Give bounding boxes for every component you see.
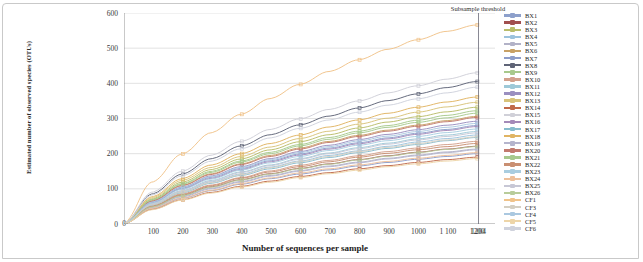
gridlines [124, 13, 495, 189]
legend-label: BX16 [525, 118, 540, 125]
legend-label: BX20 [525, 147, 540, 154]
subsample-threshold-label: Subsample threshold [413, 5, 543, 12]
legend-item-bx8[interactable]: BX8 [504, 62, 579, 69]
legend-label: BX2 [525, 19, 537, 26]
legend-label: BX8 [525, 62, 537, 69]
legend-swatch-icon [504, 92, 521, 94]
legend-item-bx11[interactable]: BX11 [504, 83, 579, 90]
y-axis-label: Estimated number of observed species (OT… [25, 18, 32, 198]
legend-item-bx5[interactable]: BX5 [504, 40, 579, 47]
legend-label: CF5 [525, 218, 536, 225]
legend-item-bx18[interactable]: BX18 [504, 133, 579, 140]
legend-swatch-icon [504, 114, 521, 116]
legend-swatch-icon [504, 43, 521, 45]
legend-label: BX19 [525, 140, 540, 147]
legend-item-bx10[interactable]: BX10 [504, 76, 579, 83]
legend-label: BX26 [525, 189, 540, 196]
legend-swatch-icon [504, 135, 521, 137]
legend-swatch-icon [504, 14, 521, 16]
legend-label: BX18 [525, 133, 540, 140]
legend-label: BX25 [525, 182, 540, 189]
legend-swatch-icon [504, 178, 521, 180]
legend-item-bx26[interactable]: BX26 [504, 189, 579, 196]
legend-label: BX1 [525, 12, 537, 19]
legend-item-bx4[interactable]: BX4 [504, 33, 579, 40]
legend-item-bx21[interactable]: BX21 [504, 154, 579, 161]
legend-swatch-icon [504, 192, 521, 194]
legend-label: CF4 [525, 211, 536, 218]
legend-label: BX7 [525, 55, 537, 62]
legend-label: BX6 [525, 47, 537, 54]
y-tick-label: 300 [92, 114, 118, 123]
y-tick-label: 500 [92, 44, 118, 53]
legend-swatch-icon [504, 213, 521, 215]
legend-label: BX15 [525, 111, 540, 118]
legend-swatch-icon [504, 29, 521, 31]
legend-label: BX5 [525, 40, 537, 47]
legend-item-bx2[interactable]: BX2 [504, 19, 579, 26]
legend-label: BX22 [525, 161, 540, 168]
legend-label: BX12 [525, 90, 540, 97]
legend-item-cf5[interactable]: CF5 [504, 218, 579, 225]
legend-swatch-icon [504, 149, 521, 151]
legend-item-bx20[interactable]: BX20 [504, 147, 579, 154]
y-tick-label: 600 [92, 9, 118, 18]
legend-swatch-icon [504, 170, 521, 172]
legend-label: BX17 [525, 126, 540, 133]
legend-swatch-icon [504, 99, 521, 101]
legend-item-bx19[interactable]: BX19 [504, 140, 579, 147]
legend-item-bx23[interactable]: BX23 [504, 168, 579, 175]
legend-label: BX14 [525, 104, 540, 111]
legend-item-cf1[interactable]: CF1 [504, 196, 579, 203]
legend-label: BX21 [525, 154, 540, 161]
legend-item-bx16[interactable]: BX16 [504, 118, 579, 125]
series-curves [124, 23, 479, 224]
legend-swatch-icon [504, 107, 521, 109]
legend-label: BX9 [525, 69, 537, 76]
legend-swatch-icon [504, 78, 521, 80]
legend-item-bx13[interactable]: BX13 [504, 97, 579, 104]
legend-swatch-icon [504, 64, 521, 66]
legend-item-bx24[interactable]: BX24 [504, 175, 579, 182]
legend-label: BX10 [525, 76, 540, 83]
legend-item-bx25[interactable]: BX25 [504, 182, 579, 189]
legend-item-bx14[interactable]: BX14 [504, 104, 579, 111]
legend-item-bx1[interactable]: BX1 [504, 12, 579, 19]
legend-swatch-icon [504, 57, 521, 59]
legend: BX1BX2BX3BX4BX5BX6BX7BX8BX9BX10BX11BX12B… [504, 12, 579, 232]
legend-item-bx12[interactable]: BX12 [504, 90, 579, 97]
legend-label: BX23 [525, 168, 540, 175]
legend-label: BX3 [525, 26, 537, 33]
plot-area [124, 13, 495, 224]
legend-swatch-icon [504, 206, 521, 208]
legend-swatch-icon [504, 142, 521, 144]
legend-label: BX13 [525, 97, 540, 104]
legend-item-bx6[interactable]: BX6 [504, 47, 579, 54]
legend-label: BX24 [525, 175, 540, 182]
legend-swatch-icon [504, 156, 521, 158]
legend-label: CF1 [525, 196, 536, 203]
legend-label: CF3 [525, 204, 536, 211]
y-tick-label: 100 [92, 184, 118, 193]
legend-swatch-icon [504, 21, 521, 23]
legend-swatch-icon [504, 199, 521, 201]
legend-swatch-icon [504, 50, 521, 52]
legend-item-cf4[interactable]: CF4 [504, 211, 579, 218]
rarefaction-curves-svg [124, 13, 495, 224]
legend-swatch-icon [504, 220, 521, 222]
legend-item-bx7[interactable]: BX7 [504, 55, 579, 62]
legend-swatch-icon [504, 185, 521, 187]
legend-swatch-icon [504, 227, 521, 229]
legend-swatch-icon [504, 85, 521, 87]
legend-item-bx17[interactable]: BX17 [504, 126, 579, 133]
legend-item-cf6[interactable]: CF6 [504, 225, 579, 232]
legend-item-bx3[interactable]: BX3 [504, 26, 579, 33]
legend-item-bx9[interactable]: BX9 [504, 69, 579, 76]
legend-item-bx15[interactable]: BX15 [504, 111, 579, 118]
legend-label: CF6 [525, 225, 536, 232]
y-tick-label: 400 [92, 79, 118, 88]
legend-swatch-icon [504, 36, 521, 38]
legend-item-bx22[interactable]: BX22 [504, 161, 579, 168]
legend-item-cf3[interactable]: CF3 [504, 204, 579, 211]
legend-swatch-icon [504, 128, 521, 130]
